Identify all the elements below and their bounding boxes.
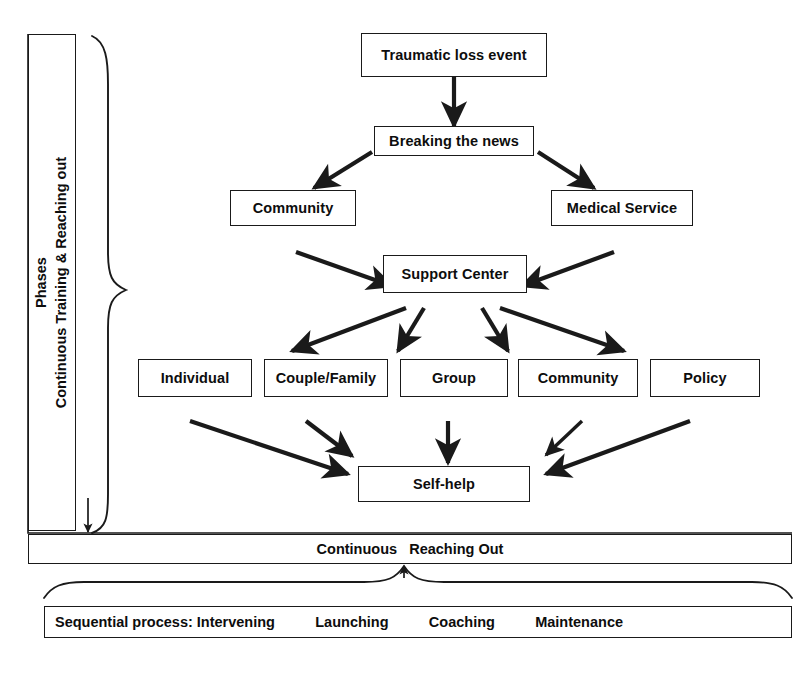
node-medical-service[interactable]: Medical Service <box>551 190 693 226</box>
node-policy[interactable]: Policy <box>650 359 760 397</box>
arrow-support-to-communityb <box>482 308 508 351</box>
arrow-communityb-to-selfhelp <box>546 421 582 455</box>
arrow-support-to-policy <box>500 308 624 351</box>
node-couple-family[interactable]: Couple/Family <box>264 359 388 397</box>
arrow-policy-to-selfhelp <box>546 421 690 474</box>
sequential-brace <box>44 566 792 598</box>
node-community-bottom-label: Community <box>538 370 619 387</box>
figure-canvas: Phases Continuous Training & Reaching ou… <box>0 0 809 676</box>
arrow-news-to-medical <box>538 152 594 188</box>
node-individual[interactable]: Individual <box>138 359 252 397</box>
phases-axis-box: Phases Continuous Training & Reaching ou… <box>28 34 76 531</box>
node-policy-label: Policy <box>683 370 726 387</box>
arrow-support-to-group <box>398 308 424 351</box>
arrow-community-to-support <box>296 252 392 286</box>
bar-sequential-process: Sequential process: Intervening Launchin… <box>44 606 792 638</box>
phases-brace <box>92 36 126 533</box>
arrow-medical-to-support <box>522 252 614 286</box>
node-couple-family-label: Couple/Family <box>276 370 376 387</box>
node-community-top[interactable]: Community <box>230 190 356 226</box>
node-group-label: Group <box>432 370 476 387</box>
bar-continuous-reaching-out-label: Continuous Reaching Out <box>317 541 504 557</box>
bar-sequential-process-label: Sequential process: Intervening Launchin… <box>55 614 623 630</box>
node-support-center[interactable]: Support Center <box>383 255 527 293</box>
node-traumatic-loss-event-label: Traumatic loss event <box>381 47 526 64</box>
node-self-help-label: Self-help <box>413 476 475 493</box>
node-self-help[interactable]: Self-help <box>358 466 530 502</box>
node-support-center-label: Support Center <box>402 266 509 283</box>
arrow-news-to-community <box>314 152 372 188</box>
node-group[interactable]: Group <box>400 359 508 397</box>
node-individual-label: Individual <box>161 370 230 387</box>
arrow-support-to-couple <box>292 308 406 351</box>
arrow-couple-to-selfhelp <box>306 421 352 456</box>
figure-caption <box>0 660 809 674</box>
node-traumatic-loss-event[interactable]: Traumatic loss event <box>361 33 547 77</box>
connector-layer <box>0 0 809 676</box>
bar-continuous-reaching-out: Continuous Reaching Out <box>28 534 792 564</box>
phases-axis-label: Phases Continuous Training & Reaching ou… <box>32 157 71 408</box>
node-community-top-label: Community <box>253 200 334 217</box>
node-medical-service-label: Medical Service <box>567 200 677 217</box>
arrow-individual-to-selfhelp <box>190 421 348 474</box>
node-breaking-the-news[interactable]: Breaking the news <box>374 126 534 156</box>
node-community-bottom[interactable]: Community <box>518 359 638 397</box>
node-breaking-the-news-label: Breaking the news <box>389 133 519 150</box>
